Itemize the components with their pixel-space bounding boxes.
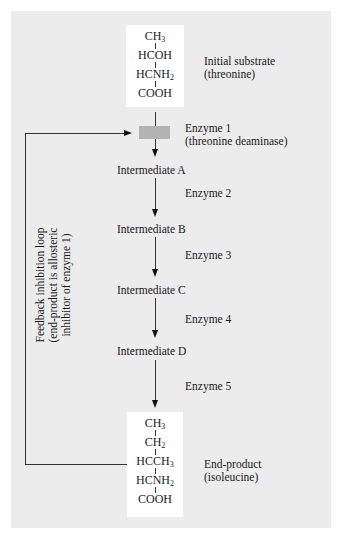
enzyme-5-label: Enzyme 5	[185, 380, 231, 393]
bond-line	[127, 468, 183, 474]
threonine-structure: CH3 HCOH HCNH2 COOH	[126, 25, 184, 107]
label-line: Initial substrate	[204, 55, 275, 68]
pathway-line	[155, 178, 156, 210]
enzyme-3-label: Enzyme 3	[185, 249, 231, 262]
pathway-line	[155, 237, 156, 270]
formula-row: CH2	[127, 436, 183, 449]
feedback-loop-label: Feedback inhibition loop (end-product is…	[34, 190, 73, 380]
arrow-down-icon	[152, 149, 158, 157]
intermediate-d: Intermediate D	[117, 345, 186, 358]
isoleucine-structure: CH3 CH2 HCCH3 HCNH2 COOH	[127, 412, 183, 517]
end-product-label: End-product (isoleucine)	[204, 458, 261, 484]
enzyme-4-label: Enzyme 4	[185, 313, 231, 326]
intermediate-c: Intermediate C	[117, 284, 186, 297]
bond-line	[127, 449, 183, 455]
label-line: End-product	[204, 458, 261, 471]
bond-line	[126, 43, 184, 49]
initial-substrate-label: Initial substrate (threonine)	[204, 55, 275, 81]
label-line: (threonine deaminase)	[185, 135, 288, 148]
pathway-line	[155, 298, 156, 331]
intermediate-a: Intermediate A	[117, 164, 186, 177]
formula-row: COOH	[126, 87, 184, 100]
formula-row: HCCH3	[127, 455, 183, 468]
label-line: (end-product is allosteric	[47, 190, 60, 380]
label-line: (threonine)	[204, 68, 275, 81]
feedback-line-vertical	[25, 133, 26, 465]
pathway-line	[155, 112, 156, 126]
label-line: (isoleucine)	[204, 471, 261, 484]
label-line: Enzyme 1	[185, 122, 288, 135]
formula-row: HCNH2	[126, 68, 184, 81]
bond-line	[126, 62, 184, 68]
formula-row: CH3	[126, 30, 184, 43]
arrow-down-icon	[152, 330, 158, 338]
formula-row: COOH	[127, 493, 183, 506]
arrow-down-icon	[152, 400, 158, 408]
formula-row: HCOH	[126, 49, 184, 62]
label-line: inhibitor of enzyme 1)	[60, 190, 73, 380]
pathway-line	[155, 139, 156, 149]
enzyme-1-marker	[139, 126, 170, 139]
intermediate-b: Intermediate B	[117, 223, 186, 236]
enzyme-1-label: Enzyme 1 (threonine deaminase)	[185, 122, 288, 148]
enzyme-2-label: Enzyme 2	[185, 187, 231, 200]
arrow-down-icon	[152, 209, 158, 217]
bond-line	[126, 81, 184, 87]
pathway-line	[155, 360, 156, 402]
feedback-line-bottom	[25, 464, 127, 465]
feedback-line-top	[25, 133, 125, 134]
arrow-down-icon	[152, 269, 158, 277]
bond-line	[127, 487, 183, 493]
bond-line	[127, 430, 183, 436]
formula-row: HCNH2	[127, 474, 183, 487]
arrow-right-icon	[124, 130, 132, 136]
label-line: Feedback inhibition loop	[34, 190, 47, 380]
formula-row: CH3	[127, 417, 183, 430]
